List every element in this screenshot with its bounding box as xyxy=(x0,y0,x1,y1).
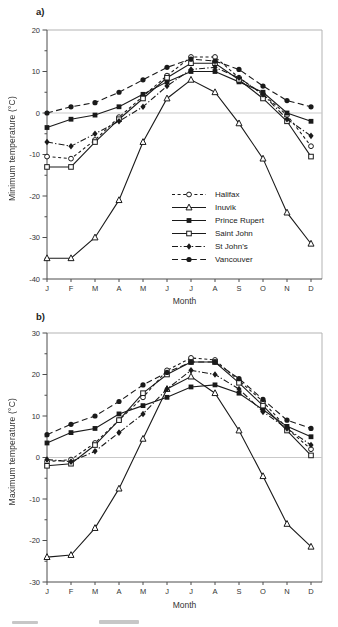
x-tick-label: J xyxy=(165,587,169,596)
x-tick-label: N xyxy=(284,284,289,293)
series-vancouver xyxy=(44,56,313,115)
x-tick-label: A xyxy=(212,587,217,596)
y-tick-label: -30 xyxy=(29,578,40,587)
x-tick-label: M xyxy=(140,284,146,293)
caption-remnant xyxy=(99,620,139,624)
legend-sample-diamond-filled xyxy=(170,241,208,252)
x-tick-label: O xyxy=(260,284,266,293)
legend-item-vancouver: Vancouver xyxy=(170,253,264,266)
legend-label: Inuvik xyxy=(215,204,236,212)
legend-label: St John's xyxy=(215,243,248,251)
y-tick-label: -40 xyxy=(29,275,40,284)
y-tick-label: -30 xyxy=(29,233,40,242)
y-tick-label: -10 xyxy=(29,495,40,504)
y-tick-label: -10 xyxy=(29,150,40,159)
panel-b-label: b) xyxy=(36,311,45,322)
x-tick-label: N xyxy=(284,587,289,596)
x-tick-label: M xyxy=(92,587,98,596)
line-chart-canvas: 20100-10-20-30-40JFMAMJJASOND3020100-10-… xyxy=(0,0,338,627)
x-tick-label: A xyxy=(116,587,121,596)
x-tick-label: J xyxy=(189,587,193,596)
legend-label: Vancouver xyxy=(215,256,253,264)
x-tick-label: A xyxy=(212,284,217,293)
series-prince-rupert xyxy=(45,382,314,445)
series-inuvik xyxy=(44,373,314,559)
legend-item-saint-john: Saint John xyxy=(170,227,264,240)
legend-item-st-john-s: St John's xyxy=(170,240,264,253)
temperature-figure: 20100-10-20-30-40JFMAMJJASOND3020100-10-… xyxy=(0,0,338,627)
panel-a-label: a) xyxy=(36,6,44,17)
y-tick-label: -20 xyxy=(29,536,40,545)
series-saint-john xyxy=(45,360,314,468)
x-tick-label: F xyxy=(69,587,74,596)
y-tick-label: 20 xyxy=(32,370,40,379)
x-tick-label: O xyxy=(260,587,266,596)
panel-b: 3020100-10-20-30JFMAMJJASOND xyxy=(29,329,322,596)
y-axis-title-minimum: Minimum temperature (°C) xyxy=(7,96,17,201)
y-tick-label: 0 xyxy=(36,453,40,462)
x-axis-title-panel-a: Month xyxy=(47,296,322,306)
x-tick-label: F xyxy=(69,284,74,293)
x-tick-label: M xyxy=(140,587,146,596)
x-tick-label: J xyxy=(45,284,49,293)
y-tick-label: -20 xyxy=(29,192,40,201)
legend-item-halifax: Halifax xyxy=(170,188,264,201)
y-tick-label: 10 xyxy=(32,67,40,76)
x-tick-label: A xyxy=(116,284,121,293)
series-halifax xyxy=(45,356,314,465)
y-tick-label: 20 xyxy=(32,26,40,35)
x-tick-label: S xyxy=(236,284,241,293)
legend-label: Prince Rupert xyxy=(215,217,264,225)
legend-item-prince-rupert: Prince Rupert xyxy=(170,214,264,227)
legend-label: Halifax xyxy=(215,191,239,199)
y-tick-label: 0 xyxy=(36,109,40,118)
y-tick-label: 10 xyxy=(32,412,40,421)
x-tick-label: D xyxy=(308,284,314,293)
x-tick-label: J xyxy=(189,284,193,293)
x-tick-label: M xyxy=(92,284,98,293)
x-tick-label: J xyxy=(165,284,169,293)
series-vancouver xyxy=(44,359,313,437)
legend-sample-square-open xyxy=(170,228,208,239)
legend-sample-circle-open xyxy=(170,189,208,200)
y-axis-title-maximum: Maximum temperature (°C) xyxy=(7,398,17,505)
legend: HalifaxInuvikPrince RupertSaint JohnSt J… xyxy=(170,188,264,266)
caption-remnant xyxy=(12,621,38,624)
legend-sample-square-filled xyxy=(170,215,208,226)
legend-sample-triangle-open xyxy=(170,202,208,213)
legend-item-inuvik: Inuvik xyxy=(170,201,264,214)
x-tick-label: D xyxy=(308,587,314,596)
x-tick-label: J xyxy=(45,587,49,596)
legend-sample-circle-filled xyxy=(170,254,208,265)
y-tick-label: 30 xyxy=(32,329,40,338)
legend-label: Saint John xyxy=(215,230,253,238)
x-axis-title-panel-b: Month xyxy=(47,600,322,610)
x-tick-label: S xyxy=(236,587,241,596)
